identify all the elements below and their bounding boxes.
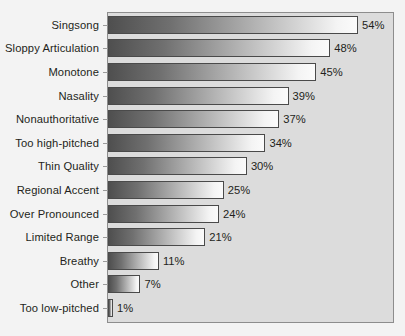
bar-row: Too high-pitched34% — [0, 131, 405, 155]
bar-with-value: 24% — [108, 205, 246, 223]
category-label: Regional Accent — [17, 184, 99, 196]
bar — [108, 205, 219, 223]
bar-chart: Singsong54%Sloppy Articulation48%Monoton… — [0, 0, 405, 336]
bar — [108, 110, 279, 128]
value-label: 34% — [269, 137, 291, 149]
bar-row: Over Pronounced24% — [0, 202, 405, 226]
category-label: Limited Range — [26, 231, 99, 243]
value-label: 1% — [117, 302, 133, 314]
bar-with-value: 25% — [108, 181, 250, 199]
category-label: Nonauthoritative — [16, 113, 99, 125]
bar-row: Singsong54% — [0, 13, 405, 37]
bar — [108, 181, 224, 199]
value-label: 7% — [144, 278, 160, 290]
bar-row: Limited Range21% — [0, 225, 405, 249]
value-label: 39% — [293, 90, 315, 102]
value-label: 48% — [334, 42, 356, 54]
bar-with-value: 30% — [108, 157, 273, 175]
category-label: Monotone — [48, 66, 99, 78]
bar — [108, 228, 205, 246]
bar-row: Monotone45% — [0, 60, 405, 84]
bar — [108, 252, 159, 270]
category-label: Sloppy Articulation — [5, 42, 99, 54]
category-label: Too low-pitched — [20, 302, 99, 314]
bar — [108, 16, 358, 34]
bar-with-value: 7% — [108, 275, 161, 293]
value-label: 24% — [223, 208, 245, 220]
category-label: Nasality — [58, 90, 99, 102]
bar-with-value: 39% — [108, 87, 315, 105]
value-label: 37% — [283, 113, 305, 125]
bar-row: Breathy11% — [0, 249, 405, 273]
category-label: Too high-pitched — [15, 137, 99, 149]
category-label: Thin Quality — [38, 160, 99, 172]
bar-row: Thin Quality30% — [0, 155, 405, 179]
bar-row: Sloppy Articulation48% — [0, 37, 405, 61]
category-label: Other — [71, 278, 99, 290]
category-label: Over Pronounced — [10, 208, 99, 220]
bar — [108, 63, 316, 81]
bar-with-value: 21% — [108, 228, 232, 246]
value-label: 30% — [251, 160, 273, 172]
value-label: 54% — [362, 19, 384, 31]
value-label: 21% — [209, 231, 231, 243]
bar-row: Other7% — [0, 273, 405, 297]
bar — [108, 299, 113, 317]
value-label: 11% — [163, 255, 185, 267]
bar — [108, 87, 289, 105]
bar — [108, 134, 265, 152]
bar-with-value: 34% — [108, 134, 292, 152]
bar — [108, 275, 140, 293]
bar-with-value: 54% — [108, 16, 384, 34]
bar-with-value: 1% — [108, 299, 133, 317]
bar-with-value: 48% — [108, 39, 357, 57]
value-label: 45% — [320, 66, 342, 78]
category-label: Breathy — [60, 255, 99, 267]
bar-row: Nonauthoritative37% — [0, 107, 405, 131]
category-label: Singsong — [52, 19, 99, 31]
bar-row: Nasality39% — [0, 84, 405, 108]
bar-with-value: 37% — [108, 110, 306, 128]
bar-with-value: 45% — [108, 63, 343, 81]
value-label: 25% — [228, 184, 250, 196]
bar-row: Regional Accent25% — [0, 178, 405, 202]
bar-row: Too low-pitched1% — [0, 296, 405, 320]
bar-with-value: 11% — [108, 252, 184, 270]
bar — [108, 157, 247, 175]
bar — [108, 39, 330, 57]
